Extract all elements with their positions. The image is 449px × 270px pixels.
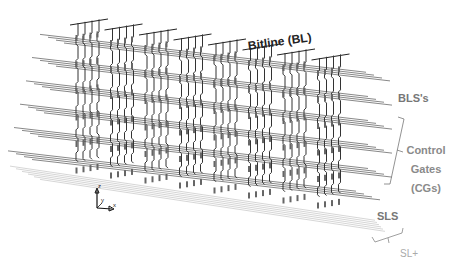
sl-plus-line (40, 179, 385, 231)
memory-cell (262, 137, 264, 143)
memory-cell (262, 164, 264, 170)
memory-cell (324, 69, 326, 75)
memory-cell (235, 131, 237, 137)
sls-label: SLS (377, 211, 398, 222)
memory-cell (90, 112, 92, 118)
memory-cell (124, 91, 126, 97)
memory-cell (262, 84, 264, 90)
sl-plus-line (34, 177, 383, 229)
memory-cell (338, 119, 340, 125)
memory-cell (228, 132, 230, 138)
memory-cell (117, 65, 119, 71)
memory-cell (145, 98, 147, 104)
memory-cell (179, 183, 181, 189)
memory-cell (255, 191, 257, 197)
memory-cell (131, 116, 133, 122)
memory-cell (248, 166, 250, 172)
memory-cell (159, 43, 161, 49)
memory-cell (331, 200, 333, 206)
memory-cell (76, 35, 78, 41)
memory-cell (228, 159, 230, 165)
memory-cell (324, 95, 326, 101)
memory-cell (159, 149, 161, 155)
memory-cell (269, 109, 271, 115)
bitline (105, 24, 143, 30)
memory-cell (152, 176, 154, 182)
control-gates-label-line1: Control (404, 145, 448, 156)
memory-cell (214, 188, 216, 194)
memory-cell (145, 125, 147, 131)
memory-cell (331, 68, 333, 74)
memory-cell (304, 141, 306, 147)
memory-cell (117, 92, 119, 98)
memory-cell (124, 144, 126, 150)
memory-cell (221, 133, 223, 139)
memory-cell (248, 140, 250, 146)
memory-cell (110, 40, 112, 46)
memory-cell (221, 186, 223, 192)
memory-cell (283, 118, 285, 124)
memory-cell (331, 147, 333, 153)
memory-cell (317, 176, 319, 182)
bitline (174, 34, 212, 40)
memory-cell (97, 111, 99, 117)
memory-cell (324, 148, 326, 154)
axis-x-label: x (113, 202, 116, 208)
bitline (70, 19, 108, 25)
memory-cell (186, 128, 188, 134)
memory-cell (338, 93, 340, 99)
memory-cell (200, 179, 202, 185)
memory-cell (110, 120, 112, 126)
memory-cell (90, 86, 92, 92)
memory-cell (76, 62, 78, 68)
memory-cell (76, 168, 78, 174)
cg-bracket (384, 117, 404, 184)
bitline (208, 39, 246, 45)
memory-cell (193, 101, 195, 107)
cg-bracket-tick (397, 150, 403, 152)
memory-cell (269, 189, 271, 195)
memory-cell (248, 60, 250, 66)
memory-cell (186, 75, 188, 81)
memory-cell (228, 79, 230, 85)
memory-cell (166, 147, 168, 153)
axis-x (97, 208, 112, 209)
memory-cell (166, 94, 168, 100)
memory-cell (110, 67, 112, 73)
memory-cell (214, 161, 216, 167)
memory-cell (317, 150, 319, 156)
memory-cell (131, 63, 133, 69)
sl-plus-line (28, 174, 381, 227)
memory-cell (83, 34, 85, 40)
bitline (312, 54, 350, 60)
memory-cell (117, 145, 119, 151)
memory-cell (152, 70, 154, 76)
memory-cell (166, 41, 168, 47)
memory-cell (297, 116, 299, 122)
memory-cell (304, 194, 306, 200)
memory-cell (131, 169, 133, 175)
memory-cell (317, 203, 319, 209)
memory-cell (221, 80, 223, 86)
memory-cell (200, 126, 202, 132)
memory-cell (152, 44, 154, 50)
sl-plus-label: SL+ (400, 249, 418, 259)
memory-cell (324, 175, 326, 181)
memory-cell (290, 90, 292, 96)
memory-cell (76, 141, 78, 147)
memory-cell (228, 53, 230, 59)
memory-cell (159, 96, 161, 102)
memory-cell (83, 113, 85, 119)
memory-cell (235, 104, 237, 110)
memory-cell (214, 82, 216, 88)
memory-cell (248, 87, 250, 93)
memory-cell (255, 112, 257, 118)
memory-cell (283, 92, 285, 98)
memory-cell (290, 170, 292, 176)
memory-cell (131, 142, 133, 148)
memory-cell (317, 70, 319, 76)
memory-cell (338, 199, 340, 205)
memory-cell (304, 167, 306, 173)
memory-cell (235, 78, 237, 84)
memory-cell (186, 155, 188, 161)
